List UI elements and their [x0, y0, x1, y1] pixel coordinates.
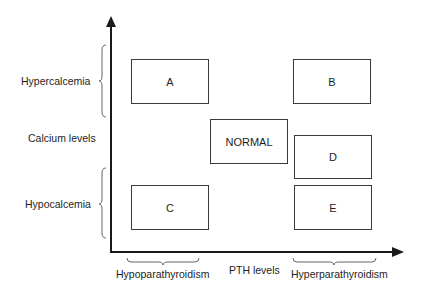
calcium-levels-axis-label: Calcium levels [28, 132, 96, 144]
x-axis-arrow-icon [392, 247, 404, 257]
box-normal: NORMAL [210, 119, 288, 164]
box-a: A [131, 59, 209, 104]
box-e: E [294, 185, 372, 230]
box-d: D [294, 135, 372, 179]
hypoparathyroidism-label: Hypoparathyroidism [116, 268, 209, 280]
hypocalcemia-label: Hypocalcemia [25, 198, 91, 210]
hypocalcemia-brace-icon [99, 168, 106, 238]
box-b: B [293, 59, 371, 104]
y-axis-arrow-icon [106, 16, 116, 27]
box-c: C [131, 185, 209, 230]
hypercalcemia-label: Hypercalcemia [21, 75, 90, 87]
hyperparathyroidism-brace-icon [293, 258, 376, 265]
hyperparathyroidism-label: Hyperparathyroidism [291, 268, 388, 280]
pth-levels-axis-label: PTH levels [229, 264, 280, 276]
hypercalcemia-brace-icon [99, 45, 106, 117]
hypoparathyroidism-brace-icon [127, 258, 199, 265]
